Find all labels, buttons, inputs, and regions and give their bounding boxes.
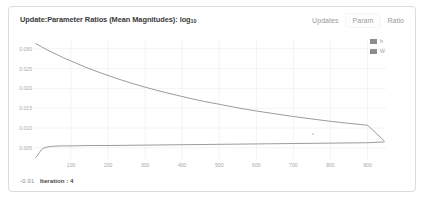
data-series [36, 44, 384, 158]
page-title: Update:Parameter Ratios (Mean Magnitudes… [20, 15, 197, 24]
x-tick-label: 800 [326, 162, 335, 168]
x-axis-tick-labels: 100200300400500600700800900 [34, 162, 386, 170]
series-line-b [36, 44, 384, 141]
y-tick-label: 0.010 [19, 125, 32, 131]
x-tick-label: 400 [178, 162, 187, 168]
plot-area [34, 40, 386, 159]
gridlines [34, 40, 386, 159]
y-axis-tick-labels: 0.0050.0100.0150.0200.0250.030 [15, 40, 32, 159]
tab-updates[interactable]: Updates [305, 14, 345, 27]
chart-title-text: Update:Parameter Ratios (Mean Magnitudes… [20, 15, 191, 24]
tab-param[interactable]: Param [346, 14, 381, 27]
x-tick-label: 200 [104, 162, 113, 168]
y-tick-label: 0.025 [19, 66, 32, 72]
y-tick-label: 0.015 [19, 105, 32, 111]
x-tick-label: 900 [363, 162, 372, 168]
series-line-W [36, 142, 384, 157]
y-tick-label: 0.030 [19, 46, 32, 52]
footer-iteration-label: Iteration : 4 [40, 177, 73, 184]
x-tick-label: 100 [67, 162, 76, 168]
x-tick-label: 500 [215, 162, 224, 168]
tab-ratio[interactable]: Ratio [380, 14, 411, 27]
chart-svg [34, 40, 386, 159]
x-tick-label: 600 [252, 162, 261, 168]
cursor-artifact [312, 133, 314, 135]
tab-bar: Updates Param Ratio [305, 11, 411, 29]
y-tick-label: 0.020 [19, 85, 32, 91]
chart-card: Update:Parameter Ratios (Mean Magnitudes… [8, 6, 416, 192]
chart-title-subscript: 10 [191, 18, 197, 24]
x-tick-label: 300 [141, 162, 150, 168]
footer-value: -0.91 [20, 177, 34, 184]
chart-footer: -0.91 Iteration : 4 [20, 177, 73, 184]
x-tick-label: 700 [289, 162, 298, 168]
y-tick-label: 0.005 [19, 145, 32, 151]
chart-header: Update:Parameter Ratios (Mean Magnitudes… [9, 7, 417, 33]
